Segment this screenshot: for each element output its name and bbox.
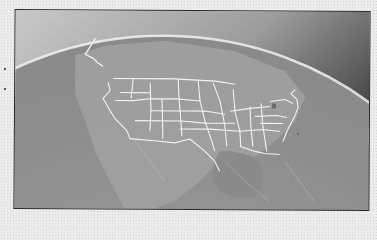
coastal-dot <box>297 133 299 135</box>
globe-image-frame <box>13 9 370 211</box>
globe-illustration <box>14 10 369 210</box>
great-lakes-marker <box>272 103 276 108</box>
paper-mark <box>4 68 6 70</box>
paper-mark <box>4 88 6 90</box>
